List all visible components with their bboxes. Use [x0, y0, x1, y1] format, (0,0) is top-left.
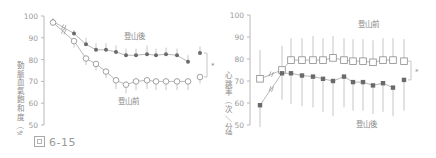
- data-point: [370, 59, 377, 66]
- data-point: [360, 58, 367, 65]
- y-axis-label-char: 氧: [17, 86, 25, 96]
- significance-bracket: [408, 61, 411, 80]
- data-point: [350, 58, 357, 65]
- y-axis-label-char: 跳: [225, 79, 233, 89]
- figure-caption: 圖6-15: [34, 136, 76, 149]
- heart-rate-chart-svg: 1009080706050心跳率（次／分鐘）*登山前登山後: [218, 0, 436, 135]
- data-point: [361, 80, 365, 84]
- data-point: [104, 48, 108, 52]
- data-point: [197, 74, 203, 80]
- data-point: [134, 53, 138, 57]
- data-point: [174, 79, 180, 85]
- data-point: [185, 79, 191, 85]
- y-tick-label: 60: [28, 99, 38, 108]
- y-tick-label: 80: [28, 56, 38, 65]
- data-point: [371, 83, 375, 87]
- data-point: [103, 69, 109, 75]
- data-point: [164, 52, 168, 56]
- y-axis-label-char: %: [15, 130, 24, 135]
- data-point: [71, 38, 77, 44]
- data-point: [342, 74, 346, 78]
- data-point: [391, 85, 395, 89]
- significance-bracket: [204, 53, 207, 77]
- data-point: [381, 81, 385, 85]
- y-tick-label: 70: [28, 77, 38, 86]
- spo2-chart-svg: 1009080706050動脈血氧飽和度（%）*登山後登山前: [0, 0, 218, 135]
- data-point: [133, 79, 139, 85]
- data-point: [402, 78, 406, 82]
- data-point: [330, 55, 337, 62]
- data-point: [311, 74, 315, 78]
- data-point: [320, 57, 327, 64]
- y-tick-label: 50: [234, 121, 244, 130]
- series-label-top: 登山前: [358, 19, 380, 29]
- data-point: [153, 79, 159, 85]
- data-point: [124, 53, 128, 57]
- y-axis-label-char: 率: [225, 87, 233, 97]
- series-label-bottom: 登山前: [118, 96, 140, 106]
- data-point: [113, 78, 119, 84]
- y-tick-label: 50: [28, 121, 38, 130]
- y-axis-label-char: 飽: [17, 94, 25, 104]
- data-point: [300, 73, 304, 77]
- data-point: [123, 82, 129, 88]
- data-point: [288, 57, 295, 64]
- data-point: [94, 48, 98, 52]
- y-axis-label-char: 度: [17, 112, 25, 122]
- y-tick-label: 60: [234, 99, 244, 108]
- data-point: [145, 52, 149, 56]
- y-tick-label: 90: [234, 33, 244, 42]
- spo2-chart: 1009080706050動脈血氧飽和度（%）*登山後登山前: [0, 0, 218, 135]
- data-point: [351, 80, 355, 84]
- data-point: [50, 20, 56, 26]
- data-point: [280, 71, 284, 75]
- series-label-top: 登山後: [124, 31, 146, 41]
- y-axis-label-char: 脈: [17, 69, 25, 79]
- y-tick-label: 100: [230, 11, 245, 20]
- caption-number: 6-15: [49, 136, 76, 149]
- y-tick-label: 80: [234, 55, 244, 64]
- y-axis-label-char: 鐘: [225, 130, 233, 135]
- y-tick-label: 100: [24, 12, 39, 21]
- data-point: [289, 71, 293, 75]
- data-point: [93, 61, 99, 67]
- y-axis-label-char: 血: [17, 77, 25, 87]
- figure-icon: [34, 136, 45, 147]
- data-point: [321, 77, 325, 81]
- series-label-bottom: 登山後: [356, 119, 378, 129]
- data-point: [401, 58, 408, 65]
- data-point: [83, 56, 89, 62]
- data-point: [186, 60, 190, 64]
- y-axis-label-char: （: [15, 122, 24, 130]
- data-point: [299, 57, 306, 64]
- y-axis-label-char: 次: [225, 104, 233, 114]
- data-point: [331, 79, 335, 83]
- data-point: [257, 76, 264, 83]
- heart-rate-chart: 1009080706050心跳率（次／分鐘）*登山前登山後: [218, 0, 436, 135]
- data-point: [341, 57, 348, 64]
- significance-marker: *: [211, 62, 215, 70]
- y-axis-label-char: ／: [223, 115, 232, 123]
- data-point: [114, 50, 118, 54]
- data-point: [144, 78, 150, 84]
- data-point: [84, 42, 88, 46]
- data-point: [175, 53, 179, 57]
- y-tick-label: 90: [28, 34, 38, 43]
- y-tick-label: 70: [234, 77, 244, 86]
- data-point: [310, 57, 317, 64]
- data-point: [258, 103, 262, 107]
- data-point: [198, 51, 202, 55]
- y-axis-label-char: （: [223, 97, 232, 105]
- data-point: [380, 57, 387, 64]
- significance-marker: *: [415, 68, 419, 76]
- data-point: [390, 57, 397, 64]
- data-point: [163, 79, 169, 85]
- data-point: [72, 31, 76, 35]
- data-point: [154, 53, 158, 57]
